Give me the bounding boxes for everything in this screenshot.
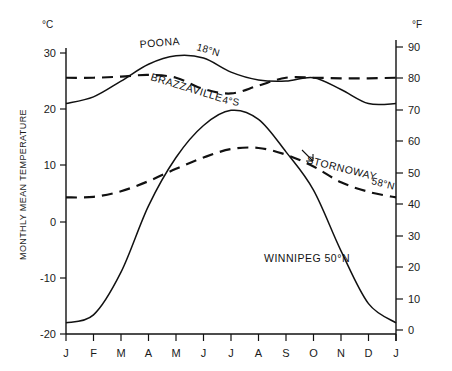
month-label: J [201,347,207,359]
left-axis-unit: °C [42,19,53,30]
series-latitude-poona: 18°N [195,41,221,58]
series-latitude-stornoway: 58°N [371,175,397,191]
month-label: J [228,347,234,359]
left-tick-label: 10 [44,159,56,171]
left-tick-label: 20 [44,103,56,115]
month-label: F [90,347,97,359]
right-tick-label: 10 [408,293,420,305]
left-tick-label: -20 [40,328,56,340]
month-label: D [365,347,373,359]
series-label-brazzaville: BRAZZAVILLE [149,70,224,103]
right-tick-label: 90 [408,41,420,53]
right-axis-ticks [396,47,403,330]
x-axis-ticks [66,334,396,341]
right-tick-label: 30 [408,230,420,242]
month-label: M [171,347,180,359]
left-tick-label: -10 [40,272,56,284]
x-axis-tick-labels: J F M A M J J A S O N D J [63,347,399,359]
climate-line-chart: °C °F MONTHLY MEAN TEMPERATURE 30 20 10 … [0,0,452,371]
series-line-winnipeg [66,110,396,323]
right-tick-label: 80 [408,72,420,84]
month-label: O [309,347,318,359]
month-label: N [337,347,345,359]
right-axis-unit: °F [412,19,422,30]
series-label-poona: POONA [139,35,180,50]
series-label-winnipeg: WINNIPEG 50°N [264,252,350,264]
right-tick-label: 20 [408,261,420,273]
month-label: A [145,347,153,359]
y-axis-title: MONTHLY MEAN TEMPERATURE [18,109,28,260]
chart-figure: °C °F MONTHLY MEAN TEMPERATURE 30 20 10 … [0,0,452,371]
right-tick-label: 70 [408,104,420,116]
month-label: J [63,347,69,359]
month-label: J [393,347,399,359]
right-tick-label: 50 [408,167,420,179]
left-tick-label: 0 [50,216,56,228]
right-tick-label: 40 [408,198,420,210]
left-axis-tick-labels: 30 20 10 0 -10 -20 [40,47,56,340]
right-axis-tick-labels: 90 80 70 60 50 40 30 20 10 0 [408,41,420,336]
left-axis-ticks [60,53,66,334]
month-label: A [255,347,263,359]
month-label: M [116,347,125,359]
right-tick-label: 60 [408,135,420,147]
month-label: S [282,347,289,359]
left-tick-label: 30 [44,47,56,59]
right-tick-label: 0 [408,324,414,336]
series-latitude-brazzaville: 4°S [222,94,241,108]
